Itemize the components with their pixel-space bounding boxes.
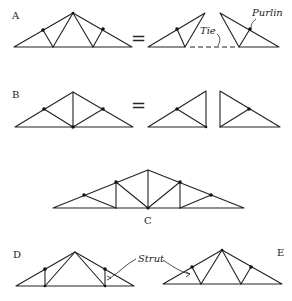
purlin-label: Purlin: [251, 7, 283, 18]
truss-e: E: [163, 247, 284, 284]
tie-label: Tie: [200, 25, 216, 36]
truss-b: B: [12, 89, 133, 129]
label-d: D: [13, 249, 21, 260]
label-b: B: [12, 89, 19, 100]
truss-a-split: Tie Purlin: [148, 7, 283, 47]
tie-leader: [217, 34, 220, 46]
truss-b-split: [148, 91, 280, 128]
truss-c: C: [53, 170, 244, 226]
truss-d: D: [13, 249, 134, 287]
label-a: A: [11, 10, 20, 21]
label-c: C: [144, 215, 152, 226]
equals-sign-a: =: [131, 28, 146, 49]
equals-sign-b: =: [131, 95, 146, 116]
truss-diagram: A = Tie Purlin B =: [0, 0, 292, 301]
label-e: E: [277, 247, 284, 258]
purlin-leader: [251, 19, 256, 28]
truss-a: A: [11, 10, 132, 47]
strut-label: Strut: [138, 253, 165, 264]
